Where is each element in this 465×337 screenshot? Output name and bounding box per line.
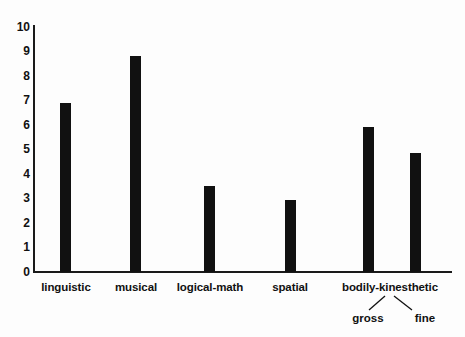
y-tick-5: 5 (4, 143, 30, 155)
y-tick-1: 1 (4, 241, 30, 253)
y-tick-0: 0 (4, 266, 30, 278)
plot-area: 10 9 8 7 6 5 4 3 2 1 0 linguistic musica… (0, 0, 465, 337)
annotation-label-gross: gross (352, 312, 383, 324)
y-axis-line (33, 25, 35, 273)
leader-line-fine (394, 296, 412, 310)
bar-musical (130, 56, 141, 272)
y-tick-3: 3 (4, 192, 30, 204)
bar-fine (410, 153, 421, 272)
category-label-bodily-kinesthetic: bodily-kinesthetic (342, 281, 438, 293)
y-tick-9: 9 (4, 45, 30, 57)
bar-linguistic (60, 103, 71, 272)
category-label-spatial: spatial (272, 281, 308, 293)
y-axis-tick-labels: 10 9 8 7 6 5 4 3 2 1 0 (0, 0, 30, 337)
y-tick-7: 7 (4, 94, 30, 106)
y-tick-10: 10 (4, 21, 30, 33)
bar-spatial (285, 200, 296, 272)
y-tick-6: 6 (4, 119, 30, 131)
bar-chart-figure: 10 9 8 7 6 5 4 3 2 1 0 linguistic musica… (0, 0, 465, 337)
bar-logical-math (204, 186, 215, 272)
category-label-musical: musical (115, 281, 157, 293)
category-label-logical-math: logical-math (177, 281, 244, 293)
x-axis-line (33, 271, 452, 273)
leader-line-gross (369, 296, 385, 310)
y-tick-8: 8 (4, 70, 30, 82)
annotation-label-fine: fine (415, 312, 435, 324)
y-tick-4: 4 (4, 168, 30, 180)
y-tick-2: 2 (4, 217, 30, 229)
bar-gross (363, 127, 374, 272)
category-label-linguistic: linguistic (41, 281, 90, 293)
